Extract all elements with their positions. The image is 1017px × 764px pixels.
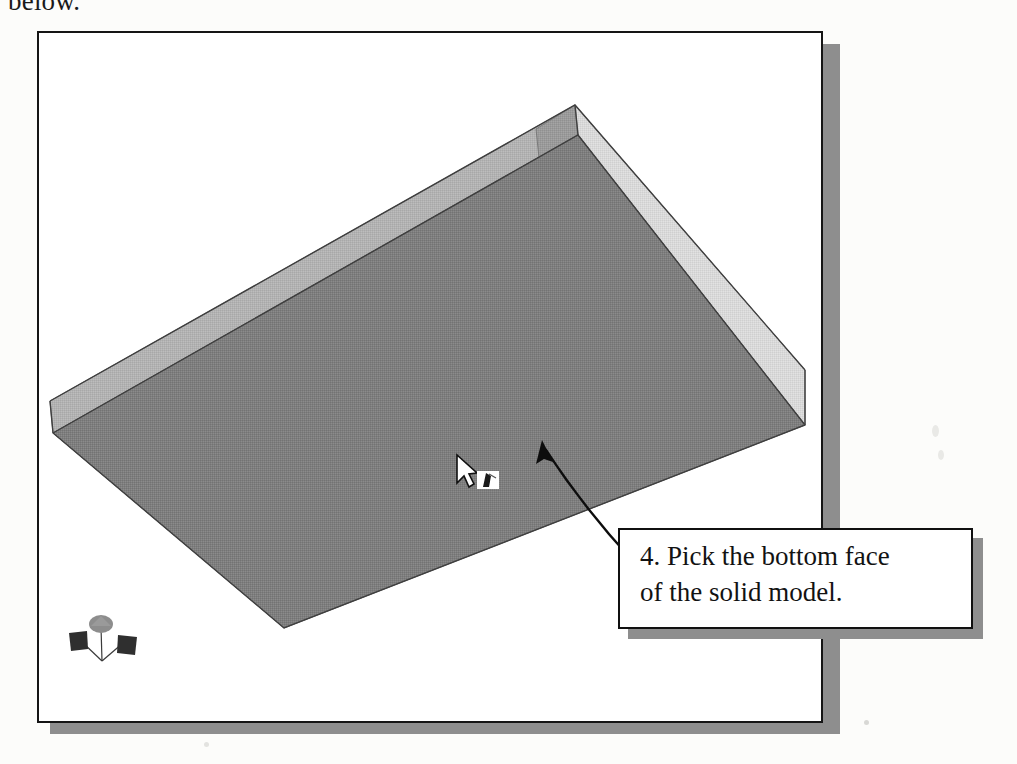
page-background: below. (0, 0, 1017, 764)
scan-speck (938, 450, 944, 460)
ucs-axis-icon (61, 611, 147, 673)
ucs-x-arrow (69, 631, 88, 651)
scan-speck (864, 720, 869, 725)
callout-line-1: 4. Pick the bottom face (640, 539, 957, 575)
scan-speck (204, 742, 209, 747)
callout-line-2: of the solid model. (640, 575, 957, 611)
ucs-y-arrow (117, 635, 137, 655)
figure-caption-text: below. (8, 0, 80, 17)
callout-box[interactable]: 4. Pick the bottom face of the solid mod… (618, 528, 973, 629)
scan-speck (932, 425, 939, 437)
